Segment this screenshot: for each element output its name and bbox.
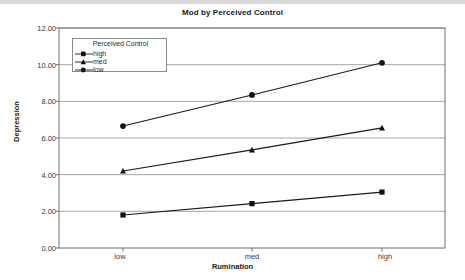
series-high xyxy=(120,189,384,217)
legend-marker-square-icon xyxy=(75,50,93,58)
chart-figure: Mod by Perceived Control Depression Rumi… xyxy=(0,0,465,280)
data-point-low-low xyxy=(120,123,126,129)
legend-label-high: high xyxy=(93,50,106,58)
legend-item-med[interactable]: med xyxy=(75,58,107,66)
data-point-high-low xyxy=(120,212,125,217)
legend-label-med: med xyxy=(93,58,107,66)
data-point-high-med xyxy=(249,201,254,206)
series-med xyxy=(120,125,385,174)
legend-item-high[interactable]: high xyxy=(75,50,106,58)
plot-area xyxy=(0,0,465,280)
data-point-low-high xyxy=(379,60,385,66)
legend-marker-triangle-icon xyxy=(75,58,93,66)
legend: Perceived Control high med low xyxy=(72,38,167,72)
legend-marker-circle-icon xyxy=(75,66,93,74)
legend-label-low: low xyxy=(93,66,104,74)
data-point-low-med xyxy=(249,92,255,98)
data-series-layer xyxy=(120,60,385,218)
legend-title: Perceived Control xyxy=(73,40,168,47)
legend-item-low[interactable]: low xyxy=(75,66,104,74)
data-point-med-high xyxy=(379,125,385,131)
data-point-high-high xyxy=(379,189,384,194)
